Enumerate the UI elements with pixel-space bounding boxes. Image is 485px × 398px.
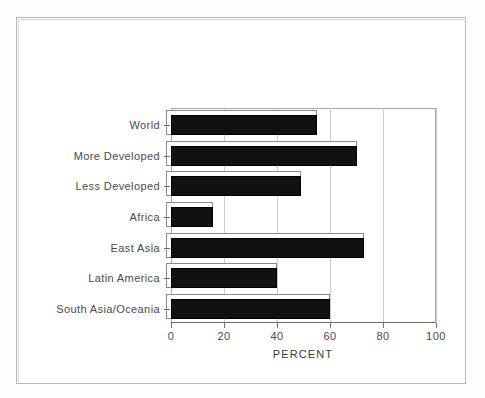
x-tick [436, 323, 437, 328]
y-tick-label: Less Developed [76, 180, 161, 192]
y-tick-label: World [129, 119, 160, 131]
y-tick-label: East Asia [111, 242, 160, 254]
y-tick-label: Africa [129, 211, 160, 223]
bar-front-face [171, 238, 364, 258]
x-tick-label: 80 [376, 330, 389, 342]
bar-front-face [171, 146, 357, 166]
y-tick-label: More Developed [74, 150, 160, 162]
gridline [383, 108, 384, 322]
gridline [436, 108, 437, 322]
x-tick-label: 100 [426, 330, 446, 342]
y-tick [164, 186, 170, 187]
y-tick [164, 125, 170, 126]
bar-front-face [171, 115, 317, 135]
x-axis-line [171, 322, 436, 323]
x-tick [224, 323, 225, 328]
x-tick-label: 60 [323, 330, 336, 342]
chart-figure: 020406080100 WorldMore DevelopedLess Dev… [0, 0, 485, 398]
y-tick-label: Latin America [88, 272, 160, 284]
x-tick [277, 323, 278, 328]
y-tick [164, 217, 170, 218]
bar-front-face [171, 176, 301, 196]
y-tick-label: South Asia/Oceania [56, 303, 160, 315]
x-tick-label: 0 [168, 330, 175, 342]
bar-front-face [171, 268, 277, 288]
bar-front-face [171, 299, 330, 319]
x-axis-label: PERCENT [273, 348, 333, 360]
x-tick-label: 20 [217, 330, 230, 342]
plot-area: 020406080100 WorldMore DevelopedLess Dev… [171, 108, 436, 322]
x-tick [330, 323, 331, 328]
x-tick [383, 323, 384, 328]
y-tick [164, 278, 170, 279]
bar-front-face [171, 207, 213, 227]
y-tick [164, 248, 170, 249]
x-tick-label: 40 [270, 330, 283, 342]
y-tick [164, 156, 170, 157]
x-tick [171, 323, 172, 328]
y-tick [164, 309, 170, 310]
